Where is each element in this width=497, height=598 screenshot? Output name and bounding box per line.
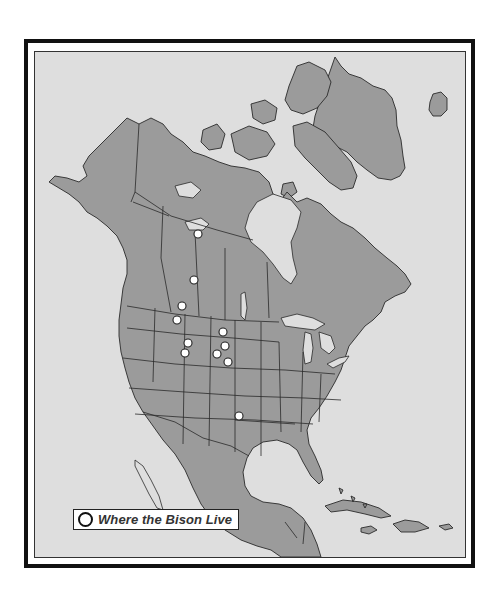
map-panel: Where the Bison Live — [34, 51, 466, 558]
hispaniola — [393, 520, 429, 532]
bison-marker — [221, 342, 229, 350]
puerto-rico — [439, 524, 453, 530]
bison-marker — [194, 230, 202, 238]
lake-michigan — [303, 332, 313, 364]
iceland — [429, 92, 447, 116]
cuba — [325, 500, 391, 518]
bison-marker — [173, 316, 181, 324]
bison-marker — [184, 339, 192, 347]
map-legend: Where the Bison Live — [73, 509, 239, 530]
bison-marker — [224, 358, 232, 366]
banks-island — [201, 124, 225, 150]
victoria-island — [231, 126, 275, 160]
arctic-island-a — [251, 100, 277, 124]
north-america-map — [35, 52, 465, 557]
bison-marker — [181, 349, 189, 357]
bison-marker — [219, 328, 227, 336]
open-circle-icon — [78, 512, 93, 527]
bison-marker — [178, 302, 186, 310]
legend-label: Where the Bison Live — [98, 512, 232, 527]
gulf-of-california — [135, 460, 163, 510]
bison-marker — [213, 350, 221, 358]
bison-marker — [235, 412, 243, 420]
jamaica — [361, 526, 377, 534]
bison-marker — [190, 276, 198, 284]
